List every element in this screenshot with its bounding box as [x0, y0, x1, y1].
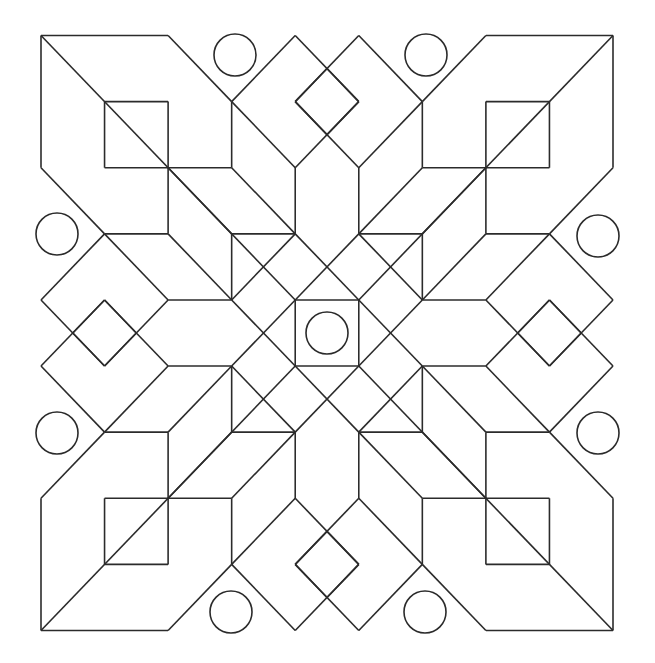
- pattern-line: [518, 300, 550, 333]
- pattern-line: [422, 234, 486, 300]
- pattern-line: [549, 432, 613, 498]
- pattern-line: [359, 564, 423, 630]
- pattern-line: [41, 168, 105, 234]
- pattern-line: [549, 366, 613, 432]
- pattern-line: [232, 498, 296, 564]
- pattern-line: [295, 69, 327, 102]
- pattern-line: [232, 168, 296, 234]
- pattern-line: [168, 234, 232, 300]
- pattern-line: [232, 36, 296, 102]
- pattern-line: [486, 234, 550, 300]
- pattern-line: [327, 69, 359, 102]
- geometric-pattern: [0, 0, 655, 663]
- outer-circle: [405, 34, 447, 76]
- pattern-line: [73, 333, 105, 366]
- pattern-line: [549, 234, 613, 300]
- pattern-line: [359, 36, 423, 102]
- pattern-line: [295, 564, 327, 597]
- pattern-line: [295, 531, 327, 564]
- outer-circle: [404, 591, 446, 633]
- pattern-line: [486, 366, 550, 432]
- pattern-line: [422, 168, 486, 234]
- pattern-line: [168, 366, 232, 432]
- pattern-line: [518, 333, 550, 366]
- pattern-line: [422, 366, 486, 432]
- pattern-line: [422, 36, 486, 102]
- pattern-line: [168, 36, 232, 102]
- pattern-line: [549, 300, 581, 333]
- pattern-line: [359, 498, 423, 564]
- center-circle: [306, 312, 348, 354]
- pattern-line: [359, 102, 423, 168]
- pattern-line: [232, 102, 296, 168]
- pattern-line: [73, 300, 105, 333]
- pattern-line: [41, 432, 105, 498]
- pattern-line: [168, 432, 232, 498]
- pattern-line: [327, 102, 359, 135]
- outer-circle: [577, 412, 619, 454]
- pattern-line: [105, 300, 137, 333]
- pattern-line: [422, 564, 486, 630]
- pattern-line: [41, 234, 105, 300]
- outer-circle: [577, 215, 619, 257]
- pattern-line: [232, 432, 296, 498]
- pattern-line: [549, 333, 581, 366]
- pattern-line: [105, 366, 169, 432]
- pattern-line: [327, 564, 359, 597]
- pattern-lines: [36, 34, 619, 633]
- pattern-line: [105, 234, 169, 300]
- pattern-line: [327, 531, 359, 564]
- outer-circle: [214, 34, 256, 76]
- outer-circle: [36, 213, 78, 255]
- pattern-line: [359, 432, 423, 498]
- pattern-line: [295, 102, 327, 135]
- outer-circle: [210, 591, 252, 633]
- pattern-line: [168, 168, 232, 234]
- pattern-line: [41, 366, 105, 432]
- pattern-line: [105, 333, 137, 366]
- pattern-line: [422, 432, 486, 498]
- outer-circle: [36, 412, 78, 454]
- pattern-line: [232, 564, 296, 630]
- pattern-line: [168, 564, 232, 630]
- pattern-line: [359, 168, 423, 234]
